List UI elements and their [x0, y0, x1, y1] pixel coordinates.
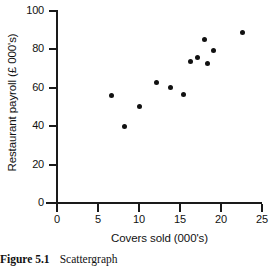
x-tick-label: 0 — [42, 214, 72, 225]
x-tick-label: 20 — [206, 214, 236, 225]
data-point — [195, 55, 200, 60]
data-point — [202, 37, 207, 42]
x-tick-label: 10 — [124, 214, 154, 225]
data-point — [154, 80, 159, 85]
x-tick — [179, 204, 181, 212]
y-tick — [49, 10, 57, 12]
plot-area — [57, 11, 262, 203]
x-tick — [220, 204, 222, 212]
y-tick — [49, 125, 57, 127]
y-tick — [49, 164, 57, 166]
x-tick-label: 5 — [83, 214, 113, 225]
data-point — [205, 61, 210, 66]
x-axis-title: Covers sold (000's) — [57, 232, 262, 245]
data-point — [122, 124, 127, 129]
figure-caption-text: Scattergraph — [60, 253, 118, 265]
x-tick-label: 15 — [165, 214, 195, 225]
data-point — [137, 104, 142, 109]
figure-caption-number: Figure 5.1 — [0, 253, 50, 265]
x-tick — [97, 204, 99, 212]
y-tick — [49, 87, 57, 89]
data-point — [188, 59, 193, 64]
x-tick — [56, 204, 58, 212]
data-point — [181, 92, 186, 97]
figure-caption: Figure 5.1Scattergraph — [0, 253, 276, 266]
x-tick — [261, 204, 263, 212]
data-point — [109, 93, 114, 98]
y-tick — [49, 48, 57, 50]
data-point — [211, 48, 216, 53]
x-tick-label: 25 — [247, 214, 277, 225]
y-axis-title: Restaurant payroll (£ 000's) — [6, 3, 19, 203]
x-tick — [138, 204, 140, 212]
data-point — [168, 85, 173, 90]
data-point — [240, 30, 245, 35]
